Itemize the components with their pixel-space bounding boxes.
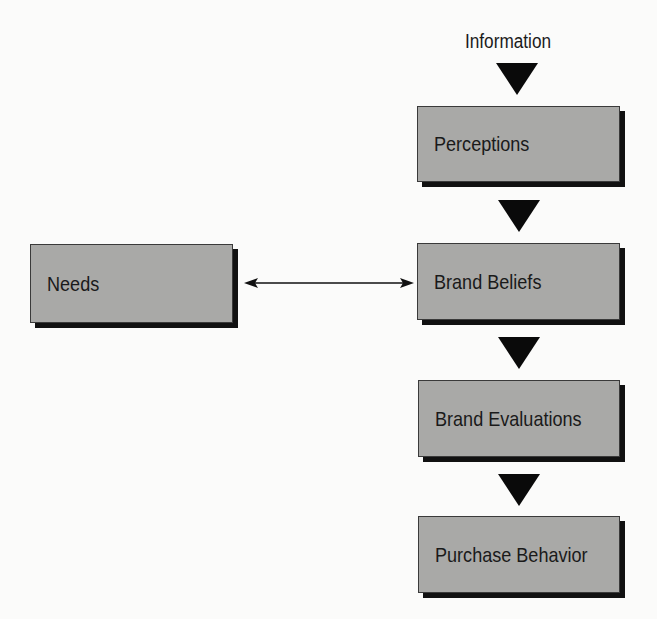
arrow-down-icon	[498, 337, 540, 369]
bidirectional-arrow-icon	[244, 276, 414, 290]
node-brand-evaluations: Brand Evaluations	[418, 380, 620, 457]
arrow-down-icon	[498, 200, 540, 232]
node-label: Needs	[47, 272, 99, 296]
node-needs: Needs	[30, 244, 233, 323]
node-label: Brand Beliefs	[434, 270, 541, 294]
node-perceptions: Perceptions	[417, 106, 620, 182]
arrow-down-icon	[496, 63, 538, 95]
arrow-down-icon	[498, 474, 540, 506]
node-label: Perceptions	[434, 132, 529, 156]
node-purchase-behavior: Purchase Behavior	[418, 516, 620, 593]
node-brand-beliefs: Brand Beliefs	[417, 243, 620, 320]
node-label: Brand Evaluations	[435, 407, 582, 431]
information-label: Information	[465, 30, 551, 53]
node-label: Purchase Behavior	[435, 543, 588, 567]
